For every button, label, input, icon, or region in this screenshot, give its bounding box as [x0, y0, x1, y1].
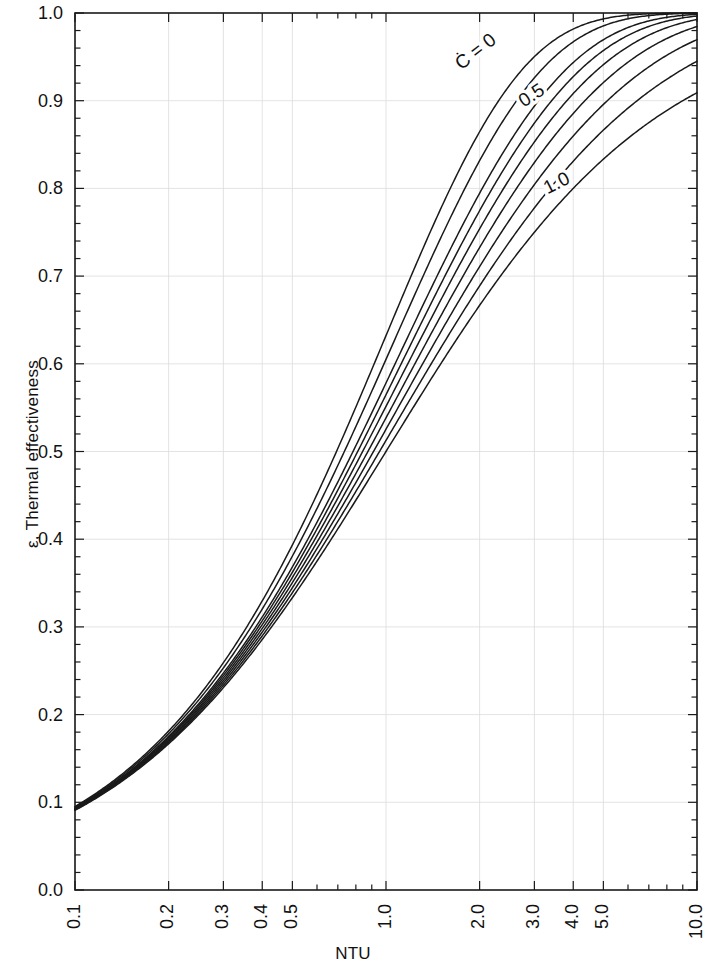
curve-labels: Ċ = 0Ċ = 00.50.51.01.0 — [451, 29, 573, 198]
y-axis-title: ε, Thermal effectiveness — [23, 254, 43, 654]
x-tick-label: 0.2 — [157, 904, 177, 929]
y-tick-label: 1.0 — [38, 3, 63, 23]
y-tick-label: 0.8 — [38, 178, 63, 198]
x-tick-label: 5.0 — [592, 904, 612, 929]
x-tick-label: 10.0 — [686, 904, 706, 939]
x-tick-label: 2.0 — [468, 904, 488, 929]
curve-label: Ċ = 0 — [451, 29, 500, 74]
x-tick-label: 0.1 — [64, 904, 84, 929]
y-tick-label: 0.0 — [38, 880, 63, 900]
x-tick-label: 0.3 — [212, 904, 232, 929]
x-tick-label: 3.0 — [523, 904, 543, 929]
x-tick-label: 4.0 — [562, 904, 582, 929]
y-tick-label: 0.9 — [38, 91, 63, 111]
curve-label-group: 0.50.5 — [515, 79, 549, 111]
curve-label: 0.5 — [515, 79, 549, 111]
x-axis-title: NTU — [0, 944, 706, 964]
y-tick-label: 0.1 — [38, 792, 63, 812]
x-tick-labels: 0.10.20.30.40.51.02.03.04.05.010.0 — [64, 904, 706, 939]
y-tick-label: 0.2 — [38, 705, 63, 725]
effectiveness-ntu-chart: 0.10.20.30.40.51.02.03.04.05.010.0 0.00.… — [0, 0, 706, 978]
x-tick-label: 0.5 — [281, 904, 301, 929]
chart-root: 0.10.20.30.40.51.02.03.04.05.010.0 0.00.… — [0, 0, 706, 978]
x-tick-label: 0.4 — [251, 904, 271, 929]
curve-label-group: Ċ = 0Ċ = 0 — [451, 29, 500, 74]
x-tick-label: 1.0 — [375, 904, 395, 929]
